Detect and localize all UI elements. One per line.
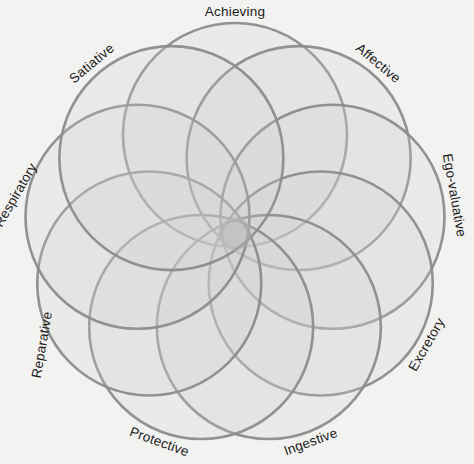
diagram-canvas: AchievingAffectiveEgo-valuativeExcretory…: [0, 0, 474, 464]
rosette-diagram: AchievingAffectiveEgo-valuativeExcretory…: [0, 0, 474, 464]
core-overlap-region: [218, 217, 252, 251]
label-achieving: Achieving: [205, 4, 265, 19]
central-overlap-core: [218, 217, 252, 251]
